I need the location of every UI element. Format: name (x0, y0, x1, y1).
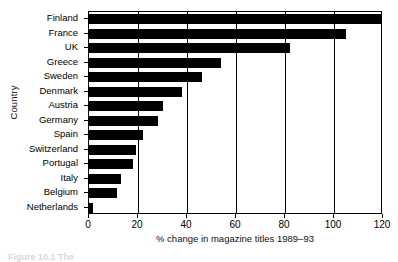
bar (89, 29, 346, 39)
bar (89, 14, 381, 24)
bar (89, 145, 136, 155)
y-axis-tick-mark (84, 134, 88, 135)
y-axis-tick-mark (84, 192, 88, 193)
x-axis-tick-label: 0 (68, 219, 108, 230)
bar (89, 159, 133, 169)
plot-area (88, 11, 382, 214)
bar (89, 72, 202, 82)
bar (89, 174, 121, 184)
bar (89, 203, 93, 213)
gridline-40 (187, 12, 188, 213)
gridline-20 (138, 12, 139, 213)
x-axis-tick-label: 20 (117, 219, 157, 230)
bar (89, 87, 182, 97)
x-axis-tick-mark (284, 214, 285, 218)
y-axis-tick-label: France (48, 28, 78, 38)
y-axis-tick-mark (84, 163, 88, 164)
bottom-caption: Figure 10.1 The (8, 252, 74, 262)
y-axis-tick-label: Belgium (44, 187, 78, 197)
y-axis-tick-label: Greece (47, 57, 78, 67)
y-axis-tick-mark (84, 62, 88, 63)
y-axis-tick-mark (84, 120, 88, 121)
bar (89, 116, 158, 126)
x-axis-tick-mark (137, 214, 138, 218)
y-axis-tick-label: UK (65, 42, 78, 52)
x-axis-tick-label: 100 (313, 219, 353, 230)
y-axis-tick-label: Sweden (44, 71, 78, 81)
y-axis-tick-mark (84, 18, 88, 19)
bar (89, 130, 143, 140)
x-axis-tick-label: 40 (166, 219, 206, 230)
y-axis-tick-mark (84, 149, 88, 150)
x-axis-tick-mark (235, 214, 236, 218)
y-axis-tick-label: Austria (48, 100, 78, 110)
bar (89, 188, 117, 198)
y-axis-tick-label: Portugal (43, 158, 78, 168)
bar (89, 43, 290, 53)
y-axis-tick-label: Spain (54, 129, 78, 139)
bar (89, 58, 221, 68)
y-axis-category-labels: FinlandFranceUKGreeceSwedenDenmarkAustri… (0, 11, 82, 214)
y-axis-tick-label: Netherlands (27, 202, 78, 212)
x-axis-tick-mark (333, 214, 334, 218)
y-axis-tick-mark (84, 47, 88, 48)
y-axis-tick-mark (84, 33, 88, 34)
y-axis-tick-label: Italy (61, 173, 78, 183)
x-axis-tick-label: 120 (362, 219, 398, 230)
gridline-80 (285, 12, 286, 213)
bar-chart: Country FinlandFranceUKGreeceSwedenDenma… (0, 0, 398, 262)
y-axis-tick-mark (84, 76, 88, 77)
y-axis-tick-mark (84, 105, 88, 106)
bar (89, 101, 163, 111)
gridline-100 (334, 12, 335, 213)
y-axis-tick-label: Denmark (39, 86, 78, 96)
y-axis-tick-label: Germany (39, 115, 78, 125)
x-axis-tick-label: 60 (215, 219, 255, 230)
x-axis-tick-mark (88, 214, 89, 218)
y-axis-tick-mark (84, 178, 88, 179)
x-axis-tick-mark (382, 214, 383, 218)
y-axis-tick-label: Switzerland (29, 144, 78, 154)
y-axis-tick-label: Finland (47, 13, 78, 23)
x-axis-title: % change in magazine titles 1989–93 (88, 233, 382, 244)
gridline-60 (236, 12, 237, 213)
y-axis-tick-mark (84, 91, 88, 92)
x-axis-tick-label: 80 (264, 219, 304, 230)
x-axis-tick-mark (186, 214, 187, 218)
y-axis-tick-mark (84, 207, 88, 208)
